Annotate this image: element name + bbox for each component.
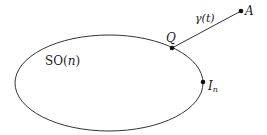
- set-label: SO(n): [45, 54, 80, 68]
- point-q-label: Q: [166, 31, 176, 45]
- point-identity-label: In: [207, 79, 218, 94]
- point-a: [239, 9, 244, 14]
- curve-label: γ(t): [195, 12, 215, 25]
- point-a-label: A: [244, 4, 254, 18]
- so-n-geodesic-diagram: SO(n) γ(t) Q A In: [0, 0, 267, 135]
- so-n-manifold-ellipse: [15, 35, 203, 131]
- point-identity: [201, 80, 206, 85]
- point-q: [170, 46, 175, 51]
